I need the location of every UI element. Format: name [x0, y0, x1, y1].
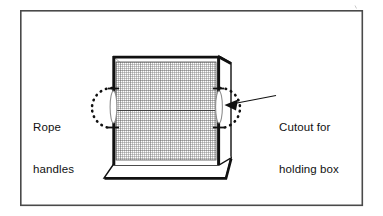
callout-rope-handles-line2: handles	[33, 162, 74, 176]
mesh-screen	[116, 62, 216, 160]
callout-rope-handles-line1: Rope	[33, 120, 74, 134]
handle-left	[110, 91, 117, 123]
callout-rope-handles: Rope handles	[33, 92, 74, 204]
callout-cutout-holding-box: Cutout for holding box	[279, 92, 339, 204]
scan-artifact	[355, 6, 357, 9]
handle-right	[216, 91, 223, 123]
holding-box	[104, 56, 231, 178]
callout-cutout-line2: holding box	[279, 162, 339, 176]
callout-cutout-line1: Cutout for	[279, 120, 339, 134]
figure-container: Rope handles Cutout for holding box	[0, 0, 383, 216]
